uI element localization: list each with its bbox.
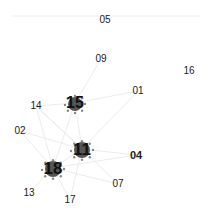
node-label-13[interactable]: 13: [23, 188, 34, 198]
satellite-dot: [70, 150, 72, 152]
satellite-dot: [74, 112, 76, 114]
node-label-04[interactable]: 04: [130, 150, 142, 161]
node-label-14[interactable]: 14: [30, 101, 41, 111]
network-graph: 05091601141502110418071317: [0, 0, 209, 224]
node-label-07[interactable]: 07: [112, 179, 123, 189]
node-label-17[interactable]: 17: [64, 195, 75, 205]
edge-18-04: [53, 155, 136, 168]
node-label-18[interactable]: 18: [44, 160, 63, 177]
node-label-02[interactable]: 02: [14, 126, 25, 136]
satellite-dot: [92, 149, 94, 151]
node-label-11[interactable]: 11: [73, 141, 91, 158]
node-label-05[interactable]: 05: [99, 15, 110, 25]
node-label-01[interactable]: 01: [132, 86, 143, 96]
satellite-dot: [63, 168, 65, 170]
satellite-dot: [81, 159, 83, 161]
satellite-dot: [84, 103, 86, 105]
node-label-16[interactable]: 16: [183, 66, 194, 76]
node-label-15[interactable]: 15: [66, 95, 84, 111]
node-label-09[interactable]: 09: [95, 54, 106, 64]
satellite-dot: [52, 178, 54, 180]
edge-18-07: [53, 168, 118, 184]
